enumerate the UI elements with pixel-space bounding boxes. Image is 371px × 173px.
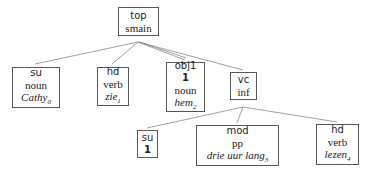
node-relation: su <box>142 132 154 144</box>
node-top: top smain <box>118 7 159 36</box>
node-category: noun <box>25 79 47 91</box>
node-category: pp <box>232 137 243 149</box>
node-relation: mod <box>226 125 248 137</box>
node-index: 1 <box>144 144 151 156</box>
node-su2: su 1 <box>137 130 158 158</box>
node-word: zie1 <box>105 90 121 107</box>
node-index: 1 <box>182 72 189 84</box>
node-relation: hd <box>107 66 120 78</box>
node-mod: mod pp drie uur lang3 <box>196 125 279 166</box>
node-word: Cathy0 <box>21 91 51 108</box>
node-category: noun <box>175 84 197 96</box>
node-relation: hd <box>331 124 344 136</box>
node-word: hem2 <box>175 96 197 113</box>
node-relation: obj1 <box>175 60 197 72</box>
node-category: inf <box>237 86 249 98</box>
node-word: drie uur lang3 <box>207 149 269 166</box>
node-word: lezen4 <box>324 148 350 165</box>
node-relation: vc <box>238 74 249 86</box>
node-vc: vc inf <box>230 72 257 100</box>
node-hd: hd verb zie1 <box>97 67 129 106</box>
node-relation: su <box>30 67 42 79</box>
node-obj1: obj1 1 noun hem2 <box>166 62 205 112</box>
node-su: su noun Cathy0 <box>12 67 60 108</box>
node-category: verb <box>328 136 348 148</box>
node-hd2: hd verb lezen4 <box>316 124 359 165</box>
node-category: verb <box>103 78 123 90</box>
node-relation: top <box>130 10 146 22</box>
node-category: smain <box>125 22 151 34</box>
